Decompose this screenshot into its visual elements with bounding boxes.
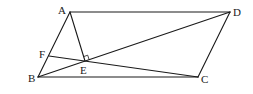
label-B: B [28,72,35,84]
label-E: E [80,64,87,76]
segment-BD [38,12,230,77]
label-F: F [39,48,45,60]
parallelogram-diagram: A D F E B C [0,0,253,94]
label-D: D [233,6,241,18]
segment-AE [70,12,85,61]
label-C: C [201,73,208,85]
label-A: A [58,4,66,16]
segment-FC [49,56,198,77]
